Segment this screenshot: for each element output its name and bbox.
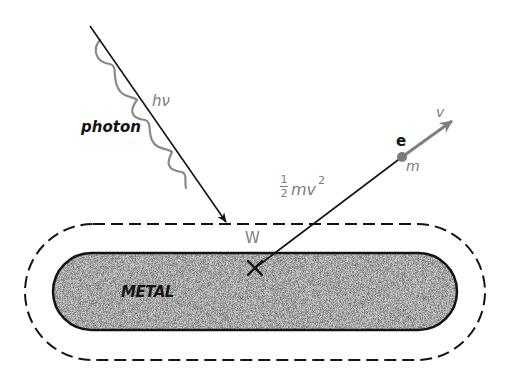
- kinetic-energy-fraction: 1 2: [280, 174, 288, 199]
- metal-label: METAL: [121, 283, 174, 301]
- electron-label: e: [396, 132, 406, 150]
- velocity-arrow: [402, 121, 452, 157]
- mass-label: m: [406, 158, 420, 174]
- electron-path: [255, 157, 402, 268]
- metal-slab: [53, 253, 457, 330]
- work-function-label: W: [245, 229, 260, 247]
- kinetic-energy-label: mv: [291, 180, 316, 199]
- photoelectric-diagram: photon hν W 1 2 mv 2 e m v METAL: [0, 0, 511, 389]
- kinetic-energy-exponent: 2: [318, 174, 325, 187]
- photon-wave: [96, 40, 186, 188]
- velocity-label: v: [436, 104, 444, 120]
- photon-label: photon: [81, 118, 141, 136]
- fraction-numerator: 1: [281, 174, 288, 185]
- diagram-graphics: [0, 0, 511, 389]
- fraction-denominator: 2: [281, 188, 288, 199]
- photon-energy-label: hν: [152, 92, 170, 110]
